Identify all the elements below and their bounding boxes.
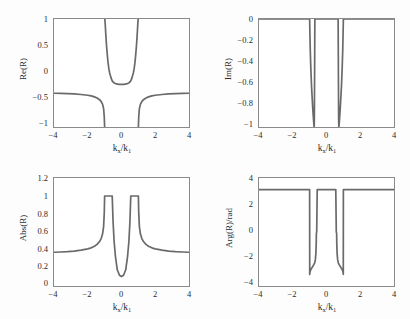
xtick-abs-r-1: −2 (74, 289, 100, 299)
xtick-re-r-1: −2 (74, 130, 100, 140)
curve-im-r (259, 19, 394, 127)
ytick-re-r-2: 0 (12, 66, 48, 76)
axis-label-x-arg-r: kx/k1 (288, 302, 366, 313)
xtick-im-r-0: −4 (245, 130, 271, 140)
ytick-re-r-0: −1 (12, 118, 48, 128)
curve-arg-r (259, 178, 394, 286)
axis-label-x-abs-r: kx/k1 (83, 302, 161, 313)
xtick-arg-r-1: −2 (279, 289, 305, 299)
xtick-re-r-0: −4 (40, 130, 66, 140)
ytick-im-r-1: −0.8 (217, 98, 253, 108)
xtick-arg-r-2: 0 (313, 289, 339, 299)
xtick-im-r-2: 0 (313, 130, 339, 140)
xtick-arg-r-3: 2 (347, 289, 373, 299)
xtick-re-r-4: 4 (176, 130, 202, 140)
axis-label-x-re-r: kx/k1 (83, 143, 161, 154)
ytick-abs-r-1: 0.2 (12, 261, 48, 271)
plot-area-im-r (258, 18, 395, 128)
ytick-arg-r-1: −2 (217, 251, 253, 261)
xtick-re-r-3: 2 (142, 130, 168, 140)
xtick-abs-r-0: −4 (40, 289, 66, 299)
xtick-arg-r-0: −4 (245, 289, 271, 299)
ytick-abs-r-2: 0.4 (12, 244, 48, 254)
ytick-im-r-0: −1 (217, 119, 253, 129)
curve-re-r (54, 19, 189, 127)
ytick-im-r-3: −0.4 (217, 56, 253, 66)
ytick-abs-r-6: 1.2 (12, 173, 48, 183)
plot-area-re-r (53, 18, 190, 128)
ytick-arg-r-0: −4 (217, 277, 253, 287)
ytick-arg-r-2: 0 (217, 225, 253, 235)
subplot-arg-r: Arg(R)/rad 4 2 0 −2 −4 −4 −2 0 2 4 kx/k1 (205, 159, 410, 319)
ytick-im-r-2: −0.6 (217, 77, 253, 87)
xtick-im-r-4: 4 (381, 130, 407, 140)
curve-abs-r (54, 178, 189, 286)
ytick-re-r-1: −0.5 (12, 92, 48, 102)
xtick-im-r-1: −2 (279, 130, 305, 140)
ytick-abs-r-5: 1 (12, 191, 48, 201)
figure-canvas: Re(R) 1 0.5 0 −0.5 −1 −4 −2 0 2 4 kx/k1 … (0, 0, 410, 319)
xtick-re-r-2: 0 (108, 130, 134, 140)
xtick-abs-r-3: 2 (142, 289, 168, 299)
ytick-abs-r-4: 0.8 (12, 209, 48, 219)
plot-area-abs-r (53, 177, 190, 287)
xtick-abs-r-4: 4 (176, 289, 202, 299)
xtick-arg-r-4: 4 (381, 289, 407, 299)
ytick-abs-r-3: 0.6 (12, 226, 48, 236)
axis-label-x-im-r: kx/k1 (288, 143, 366, 154)
xtick-abs-r-2: 0 (108, 289, 134, 299)
ytick-abs-r-0: 0 (12, 278, 48, 288)
plot-area-arg-r (258, 177, 395, 287)
xtick-im-r-3: 2 (347, 130, 373, 140)
axis-label-y-im-r: Im(R) (223, 39, 233, 99)
subplot-re-r: Re(R) 1 0.5 0 −0.5 −1 −4 −2 0 2 4 kx/k1 (0, 0, 205, 160)
ytick-im-r-5: 0 (217, 14, 253, 24)
ytick-arg-r-3: 2 (217, 199, 253, 209)
subplot-abs-r: Abs(R) 1.2 1 0.8 0.6 0.4 0.2 0 −4 −2 0 2… (0, 159, 205, 319)
ytick-arg-r-4: 4 (217, 173, 253, 183)
ytick-im-r-4: −0.2 (217, 35, 253, 45)
ytick-re-r-4: 1 (12, 14, 48, 24)
subplot-im-r: Im(R) 0 −0.2 −0.4 −0.6 −0.8 −1 −4 −2 0 2… (205, 0, 410, 160)
ytick-re-r-3: 0.5 (12, 40, 48, 50)
